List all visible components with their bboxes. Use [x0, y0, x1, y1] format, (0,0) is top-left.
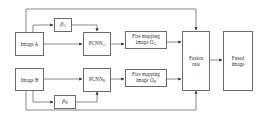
fused-image-label: Fused image: [232, 55, 245, 67]
fire-mapping-a-node: Fire mapping image OA: [125, 31, 167, 49]
fire-mapping-b-node: Fire mapping image OB: [125, 69, 167, 87]
beta-b-symbol: βB: [62, 98, 67, 106]
fused-image-node: Fused image: [223, 31, 253, 91]
pcnn-a-node: PCNNA: [83, 32, 111, 56]
beta-a-node: βA: [54, 18, 72, 32]
image-a-label: Image A: [21, 41, 39, 47]
image-b-node: Image B: [15, 68, 44, 91]
image-a-node: Image A: [15, 32, 44, 56]
pcnn-a-label: PCNNA: [89, 40, 105, 48]
beta-b-node: βB: [54, 95, 76, 109]
pcnn-b-node: PCNNB: [83, 68, 111, 92]
pcnn-b-label: PCNNB: [89, 76, 105, 84]
fusion-rule-node: Fusion rule: [182, 31, 210, 91]
image-b-label: Image B: [21, 77, 39, 83]
beta-a-symbol: βA: [60, 21, 65, 29]
fire-mapping-b-label: Fire mapping image OB: [132, 71, 160, 85]
fire-mapping-a-label: Fire mapping image OA: [132, 33, 160, 47]
fusion-rule-label: Fusion rule: [189, 55, 203, 67]
